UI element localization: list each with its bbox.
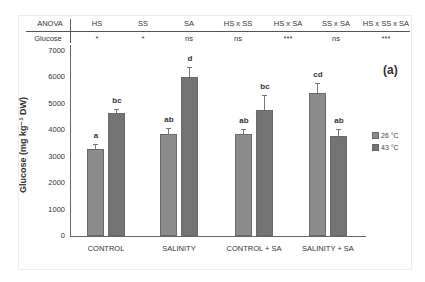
error-bar-cap [187,67,192,68]
anova-factor: HS x SA [268,19,308,28]
bar [181,77,198,236]
panel-label: (a) [383,63,398,77]
y-tick: 5000 [48,99,65,108]
significance-letter: ab [229,116,259,125]
anova-sig: ns [218,34,258,43]
error-bar-cap [241,129,246,130]
y-tick: 1000 [48,205,65,214]
significance-letter: ab [324,116,354,125]
error-bar-cap [166,128,171,129]
anova-factor: HS x SS [218,19,258,28]
anova-table: ANOVA Glucose HS * SS * SA ns HS x SS ns… [18,16,410,46]
anova-sig: ns [316,34,356,43]
anova-sig: ns [172,34,206,43]
y-axis-label: Glucose (mg kg⁻¹ DW) [18,80,28,210]
significance-letter: d [175,54,205,63]
significance-letter: ab [154,115,184,124]
x-axis [70,236,366,237]
anova-factor: SS [126,19,160,28]
anova-factor: SS x SA [316,19,356,28]
significance-letter: cd [303,70,333,79]
error-bar [264,95,265,111]
legend-label: 26 °C [381,132,399,139]
y-tick: 0 [61,231,65,240]
error-bar-cap [114,109,119,110]
anova-factor: HS x SS x SA [358,19,414,28]
legend-item-26c: 26 °C [372,129,399,141]
anova-factor: SA [172,19,206,28]
x-category-label: CONTROL + SA [214,244,294,253]
legend-label: 43 °C [381,144,399,151]
anova-sig: * [126,34,160,43]
significance-letter: a [81,131,111,140]
y-tick: 6000 [48,72,65,81]
error-bar-cap [336,129,341,130]
y-axis [70,45,71,237]
bar [160,134,177,236]
anova-sig: *** [358,34,414,43]
y-tick: 2000 [48,178,65,187]
significance-letter: bc [250,82,280,91]
anova-row-label: Glucose [26,34,70,43]
error-bar [189,67,190,78]
y-tick: 4000 [48,125,65,134]
error-bar [317,83,318,94]
chart-panel [18,15,412,270]
anova-sig: *** [268,34,308,43]
bar [235,134,252,236]
x-category-label: SALINITY + SA [288,244,368,253]
anova-horizontal-divider [26,31,410,32]
bar [256,110,273,236]
error-bar-cap [93,144,98,145]
legend-swatch-26c [372,132,379,139]
significance-letter: bc [102,96,132,105]
bar [330,136,347,236]
y-tick: 7000 [48,46,65,55]
error-bar-cap [262,95,267,96]
y-tick: 3000 [48,152,65,161]
bar [87,149,104,236]
x-category-label: CONTROL [66,244,146,253]
legend: 26 °C 43 °C [372,129,399,153]
anova-sig: * [80,34,114,43]
legend-item-43c: 43 °C [372,141,399,153]
bar [108,113,125,236]
error-bar-cap [315,83,320,84]
bar [309,93,326,236]
legend-swatch-43c [372,144,379,151]
x-category-label: SALINITY [139,244,219,253]
anova-header: ANOVA [30,19,70,28]
anova-factor: HS [80,19,114,28]
